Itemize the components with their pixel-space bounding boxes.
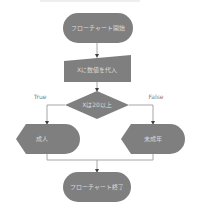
minor-label: 未成年: [144, 135, 162, 143]
decision-diamond[interactable]: Xは20以上: [65, 91, 129, 119]
end-terminator[interactable]: フローチャート終了: [63, 172, 131, 202]
adult-label: 成人: [36, 135, 48, 143]
minor-display-shape[interactable]: 未成年: [121, 124, 185, 154]
true-label: True: [33, 93, 47, 100]
end-label: フローチャート終了: [70, 183, 124, 191]
input-manual-shape[interactable]: Xに数値を代入: [64, 55, 131, 82]
start-label: フローチャート開始: [71, 24, 125, 32]
input-label: Xに数値を代入: [77, 66, 117, 74]
start-terminator[interactable]: フローチャート開始: [63, 13, 133, 43]
connector-decision-true: [47, 105, 65, 123]
decision-label: Xは20以上: [82, 101, 112, 109]
false-label: False: [148, 93, 163, 100]
adult-display-shape[interactable]: 成人: [16, 124, 80, 154]
connector-merge: [47, 154, 153, 160]
clipped-header-text: [40, 0, 140, 2]
flowchart-canvas: フローチャート開始 Xに数値を代入 Xは20以上 True False 成人 未…: [0, 0, 199, 218]
connector-decision-false: [129, 105, 153, 123]
